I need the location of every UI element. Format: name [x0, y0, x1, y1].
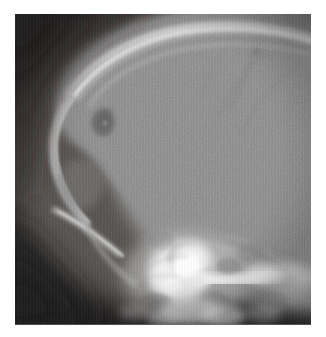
- figure-page: [0, 0, 326, 337]
- radiograph-image: [15, 14, 311, 325]
- radiograph-plate: [15, 14, 311, 325]
- plate-vignette: [15, 14, 311, 325]
